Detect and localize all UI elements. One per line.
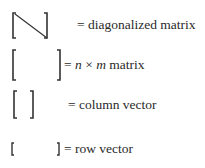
- column-vector-label: = column vector: [68, 97, 157, 113]
- row-vector-icon: [12, 143, 59, 155]
- column-vector-icon: [14, 91, 33, 118]
- row-vector-label: = row vector: [64, 141, 133, 157]
- diagonalized-matrix-icon: [13, 13, 47, 38]
- diagonalized-matrix-label: = diagonalized matrix: [77, 17, 196, 33]
- matrix-label: = n × m matrix: [64, 57, 145, 73]
- matrix-icon: [13, 50, 60, 80]
